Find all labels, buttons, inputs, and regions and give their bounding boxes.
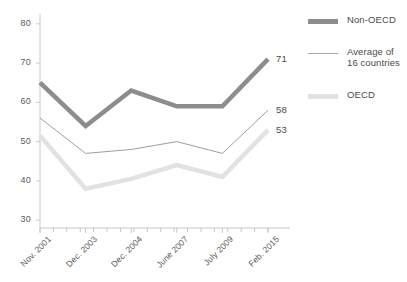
legend-item-oecd[interactable]: OECD bbox=[308, 89, 407, 101]
legend-swatch-average bbox=[308, 51, 338, 54]
chart-figure: 304050607080 Nov. 2001Dec. 2003Dec. 2004… bbox=[0, 0, 407, 282]
y-axis-tick-label: 80 bbox=[9, 18, 31, 28]
series-end-label: 71 bbox=[276, 53, 287, 64]
chart-axes bbox=[36, 14, 290, 233]
legend-swatch-oecd bbox=[308, 94, 338, 99]
legend-swatch-non-oecd bbox=[308, 19, 338, 24]
series-end-label: 58 bbox=[276, 104, 287, 115]
y-axis-tick-label: 30 bbox=[9, 214, 31, 224]
series-end-label: 53 bbox=[276, 124, 287, 135]
legend-item-non-oecd[interactable]: Non-OECD bbox=[308, 14, 407, 26]
y-axis-tick-label: 60 bbox=[9, 96, 31, 106]
series-line-2 bbox=[40, 130, 268, 189]
chart-series-layer bbox=[40, 59, 268, 189]
legend-label-non-oecd: Non-OECD bbox=[347, 14, 396, 26]
chart-legend: Non-OECD Average of 16 countries OECD bbox=[308, 14, 407, 120]
legend-label-average: Average of 16 countries bbox=[347, 46, 400, 69]
legend-item-average[interactable]: Average of 16 countries bbox=[308, 46, 407, 69]
y-axis-tick-label: 50 bbox=[9, 136, 31, 146]
legend-label-oecd: OECD bbox=[347, 89, 375, 101]
series-line-0 bbox=[40, 59, 268, 126]
y-axis-tick-label: 70 bbox=[9, 57, 31, 67]
y-axis-tick-label: 40 bbox=[9, 175, 31, 185]
